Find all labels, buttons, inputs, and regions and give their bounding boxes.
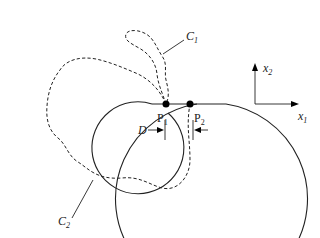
label-axis-x2: x2: [262, 61, 272, 77]
point-p1: [163, 101, 170, 108]
axis-x1-arrow-icon: [291, 101, 299, 107]
c1-leader: [163, 40, 184, 54]
label-axis-x1: x1: [297, 109, 307, 125]
label-d: D: [137, 123, 147, 137]
label-c2: C2: [58, 214, 70, 230]
axis-x2-arrow-icon: [252, 63, 258, 71]
curve-c1: [126, 31, 169, 104]
curve-c2: [47, 58, 190, 189]
d-arrow-right-head: [194, 127, 201, 133]
inner-boundary: [92, 102, 184, 194]
d-arrow-left-head: [157, 127, 164, 133]
point-p2: [187, 101, 194, 108]
c2-leader: [72, 180, 93, 218]
domain-diagram: P1 P2 D C1 C2 x2 x1: [0, 0, 320, 238]
label-c1: C1: [186, 29, 198, 45]
label-p1: P1: [157, 111, 168, 127]
label-p2: P2: [194, 111, 205, 127]
